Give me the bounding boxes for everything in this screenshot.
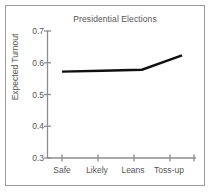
- plot-area: [0, 0, 216, 192]
- axes-group: [48, 31, 197, 158]
- data-series-line: [62, 55, 182, 71]
- chart-figure: Presidential Elections Expected Turnout …: [0, 0, 216, 192]
